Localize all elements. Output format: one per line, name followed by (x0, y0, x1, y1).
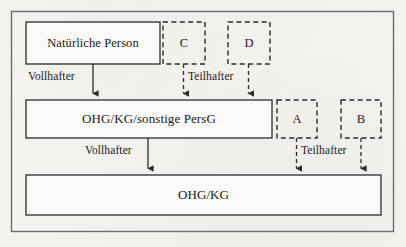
node-persg-label: OHG/KG/sonstige PersG (26, 100, 272, 138)
edge-label-vollhafter-bottom: Vollhafter (85, 144, 132, 156)
edge-label-teilhafter-top: Teilhafter (188, 70, 234, 82)
edge-label-vollhafter-top: Vollhafter (28, 70, 75, 82)
node-b-label: B (341, 100, 381, 138)
node-a-label: A (277, 100, 317, 138)
diagram-canvas: Natürliche Person C D OHG/KG/sonstige Pe… (0, 0, 406, 247)
node-c-label: C (163, 22, 205, 64)
node-ohgkg-label: OHG/KG (26, 175, 381, 215)
node-natuerliche-person-label: Natürliche Person (26, 22, 160, 64)
edge-label-teilhafter-bottom: Teilhafter (301, 144, 347, 156)
node-d-label: D (228, 22, 270, 64)
